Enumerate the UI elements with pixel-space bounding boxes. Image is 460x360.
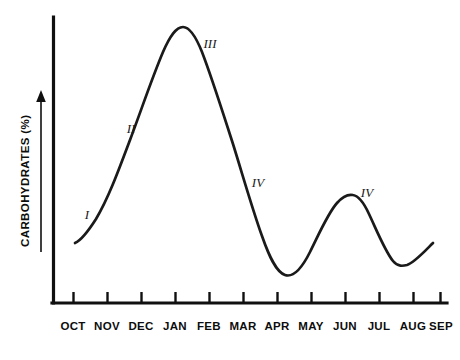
tick-label-jan: JAN (163, 320, 187, 332)
phase-label-ii: II (126, 121, 136, 136)
tick-label-mar: MAR (229, 320, 256, 332)
chart-figure: CARBOHYDRATES (%) OCT NOV DEC JAN FEB (0, 0, 460, 360)
carbohydrate-curve (75, 27, 433, 276)
tick-label-apr: APR (264, 320, 290, 332)
phase-label-iv-second: IV (360, 185, 375, 200)
phase-label-iii: III (203, 36, 218, 51)
phase-label-iv-first: IV (251, 175, 266, 190)
y-axis-direction-arrow (36, 90, 46, 252)
carbohydrate-seasonal-line-chart: CARBOHYDRATES (%) OCT NOV DEC JAN FEB (0, 0, 460, 360)
tick-label-feb: FEB (197, 320, 221, 332)
tick-label-aug: AUG (400, 320, 426, 332)
tick-label-oct: OCT (60, 320, 85, 332)
x-axis-ticks (74, 292, 441, 303)
y-axis-title: CARBOHYDRATES (%) (19, 115, 31, 247)
phase-label-i: I (84, 207, 90, 222)
x-axis-tick-labels: OCT NOV DEC JAN FEB MAR APR MAY JUN JUL … (60, 320, 453, 332)
tick-label-dec: DEC (128, 320, 153, 332)
tick-label-may: MAY (298, 320, 323, 332)
tick-label-nov: NOV (94, 320, 120, 332)
tick-label-jul: JUL (368, 320, 391, 332)
tick-label-sep: SEP (429, 320, 453, 332)
tick-label-jun: JUN (333, 320, 357, 332)
